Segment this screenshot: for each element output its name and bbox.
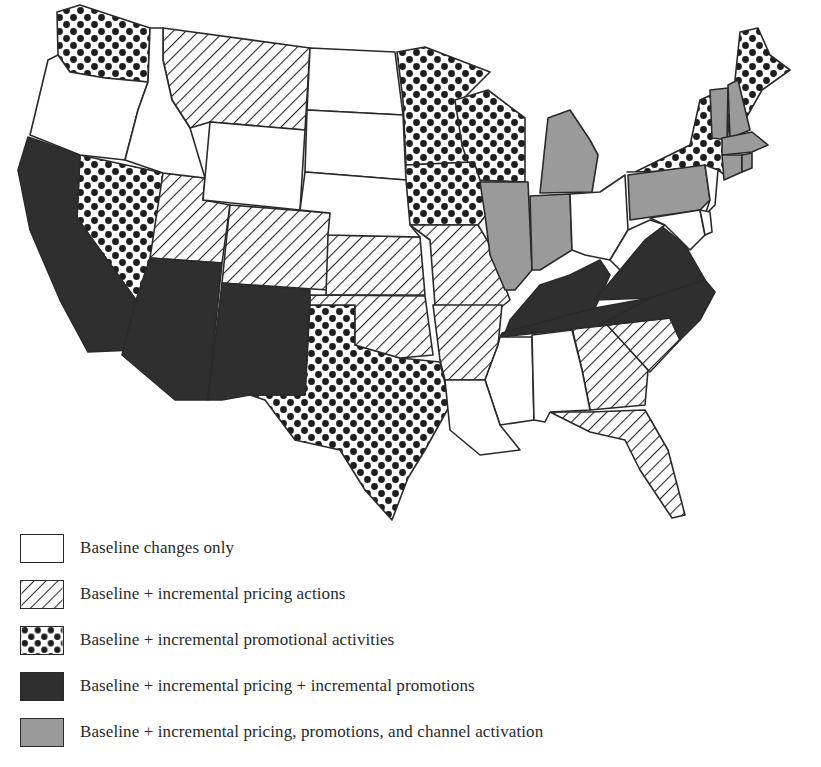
state-MI [540, 110, 598, 193]
state-FL [550, 410, 685, 518]
state-WY [203, 122, 305, 210]
legend-label: Baseline + incremental pricing, promotio… [80, 722, 543, 742]
legend-swatch-dots [20, 626, 64, 655]
state-IA [403, 162, 490, 225]
state-KS [326, 235, 425, 295]
state-ND [307, 48, 403, 115]
legend-swatch-dark [20, 672, 64, 701]
legend-label: Baseline + incremental pricing actions [80, 584, 345, 604]
state-NM [208, 283, 310, 400]
state-MT [163, 28, 310, 130]
state-VT [710, 88, 728, 140]
state-CO [222, 205, 330, 290]
legend-item-full: Baseline + incremental pricing, promotio… [20, 709, 543, 755]
legend-swatch-hatch [20, 580, 64, 609]
legend-item-pricing-promo: Baseline + incremental pricing + increme… [20, 663, 543, 709]
legend-item-pricing: Baseline + incremental pricing actions [20, 571, 543, 617]
us-state-map [0, 0, 821, 530]
state-IN [530, 194, 572, 270]
legend-label: Baseline + incremental promotional activ… [80, 630, 394, 650]
state-MA [722, 132, 768, 155]
state-CT [722, 155, 742, 180]
state-WA [57, 5, 150, 82]
legend-swatch-gray [20, 718, 64, 747]
legend-item-promo: Baseline + incremental promotional activ… [20, 617, 543, 663]
state-SD [305, 110, 406, 180]
state-RI [742, 153, 752, 172]
legend-label: Baseline + incremental pricing + increme… [80, 676, 475, 696]
legend-label: Baseline changes only [80, 538, 234, 558]
map-legend: Baseline changes only Baseline + increme… [20, 525, 543, 755]
legend-item-baseline: Baseline changes only [20, 525, 543, 571]
legend-swatch-white [20, 534, 64, 563]
